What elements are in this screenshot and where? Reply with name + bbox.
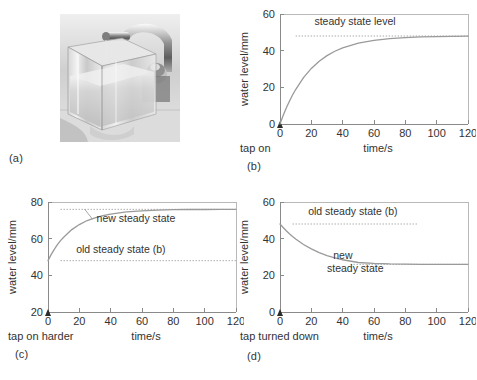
chart-annotation: old steady state (b) [76, 243, 165, 255]
x-tick-label: 60 [136, 315, 148, 327]
data-curve [280, 224, 468, 264]
plot-axes [280, 202, 468, 312]
y-tick-label: 0 [269, 118, 275, 130]
panel-label-c: (c) [15, 348, 28, 360]
x-tick-label: 40 [337, 127, 349, 139]
y-axis-title: water level/mm [6, 220, 18, 295]
y-tick-label: 60 [31, 233, 43, 245]
y-tick-label: 60 [263, 196, 275, 208]
x-tick-label: 100 [427, 315, 445, 327]
y-tick-label: 60 [263, 8, 275, 20]
panel-label-d: (d) [247, 350, 261, 362]
x-tick-label: 60 [368, 127, 380, 139]
chart-d-svg: 0204060801001200204060time/swater level/… [236, 190, 476, 350]
y-axis-title: water level/mm [238, 220, 250, 295]
data-curve [280, 36, 468, 124]
x-tick-label: 120 [459, 315, 476, 327]
chart-annotation: new steady state [97, 212, 176, 224]
x-tick-label: 80 [167, 315, 179, 327]
x-tick-label: 20 [73, 315, 85, 327]
panel-label-a: (a) [9, 152, 23, 164]
panel-a-photo: (a) [0, 0, 230, 185]
x-tick-label: 120 [459, 127, 476, 139]
x-tick-label: 0 [45, 315, 51, 327]
panel-b-chart: 0204060801001200204060time/swater level/… [236, 2, 476, 162]
y-tick-label: 20 [263, 269, 275, 281]
annotation-leader [85, 209, 93, 219]
panel-c-chart: 02040608010012020406080time/swater level… [4, 190, 244, 350]
y-tick-label: 80 [31, 196, 43, 208]
plot-axes [280, 14, 468, 124]
x-tick-label: 20 [305, 315, 317, 327]
x-tick-label: 0 [277, 315, 283, 327]
x-tick-label: 100 [195, 315, 213, 327]
x-axis-title: time/s [363, 330, 393, 342]
x-tick-label: 20 [305, 127, 317, 139]
x-tick-label: 100 [427, 127, 445, 139]
y-tick-label: 20 [263, 81, 275, 93]
x-tick-label: 40 [337, 315, 349, 327]
y-tick-label: 40 [263, 45, 275, 57]
x-tick-label: 80 [399, 127, 411, 139]
x-axis-title: time/s [131, 330, 161, 342]
panel-label-b: (b) [247, 160, 261, 172]
tank-photograph-image [60, 14, 180, 142]
x-tick-label: 0 [277, 127, 283, 139]
chart-b-svg: 0204060801001200204060time/swater level/… [236, 2, 476, 162]
chart-annotation: steady state [327, 262, 384, 274]
chart-annotation: steady state level [314, 15, 395, 27]
tank-photograph [60, 14, 180, 142]
y-tick-label: 40 [31, 269, 43, 281]
y-tick-label: 20 [31, 306, 43, 318]
x-axis-title: time/s [363, 142, 393, 154]
y-axis-title: water level/mm [238, 32, 250, 107]
x-tick-label: 80 [399, 315, 411, 327]
panel-d-chart: 0204060801001200204060time/swater level/… [236, 190, 476, 350]
y-tick-label: 0 [269, 306, 275, 318]
origin-note: tap on [240, 142, 271, 154]
chart-c-svg: 02040608010012020406080time/swater level… [4, 190, 244, 350]
origin-note: tap turned down [240, 330, 319, 342]
plot-frame [280, 202, 468, 312]
x-tick-label: 40 [105, 315, 117, 327]
plot-frame [280, 14, 468, 124]
chart-annotation: old steady state (b) [308, 205, 397, 217]
y-tick-label: 40 [263, 233, 275, 245]
chart-annotation: new [333, 249, 353, 261]
x-tick-label: 60 [368, 315, 380, 327]
origin-note: tap on harder [8, 330, 74, 342]
